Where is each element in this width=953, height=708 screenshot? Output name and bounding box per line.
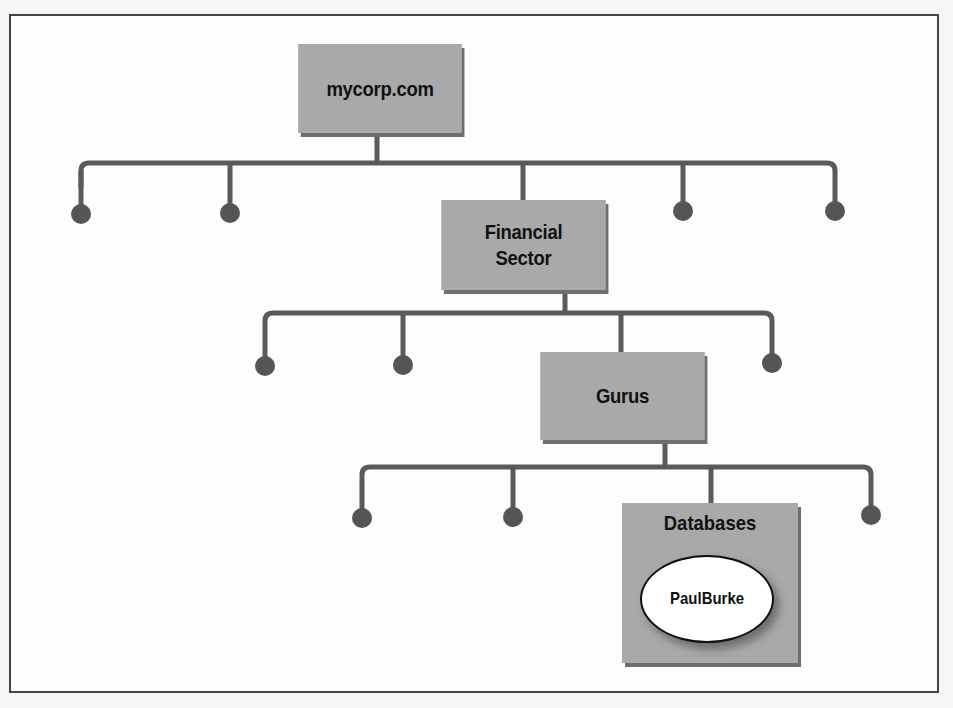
leaf-dot: [762, 353, 782, 373]
root-node-mycorp: mycorp.com: [298, 44, 462, 133]
leaf-dot: [71, 204, 91, 224]
leaf-dot: [352, 508, 372, 528]
leaf-dot: [503, 507, 523, 527]
ou-node-databases: Databases PaulBurke: [622, 503, 798, 663]
level2-bus: [265, 313, 772, 357]
leaf-dot: [255, 356, 275, 376]
leaf-dot: [825, 201, 845, 221]
ou-node-financial-sector: Financial Sector: [441, 200, 606, 290]
ou-label-gurus: Gurus: [596, 383, 649, 409]
ou-label-line2: Sector: [496, 245, 552, 271]
leaf-dot: [220, 203, 240, 223]
ou-label-line1: Financial: [485, 219, 563, 245]
root-node-label: mycorp.com: [326, 76, 433, 102]
level1-bus: [81, 163, 835, 205]
ou-label-databases: Databases: [633, 511, 788, 535]
user-label: PaulBurke: [670, 589, 744, 609]
tree-connectors: [0, 0, 953, 708]
leaf-dot: [393, 355, 413, 375]
leaf-dot: [673, 201, 693, 221]
leaf-dot: [861, 505, 881, 525]
user-object-ellipse: PaulBurke: [640, 555, 774, 643]
ou-node-gurus: Gurus: [540, 352, 705, 440]
